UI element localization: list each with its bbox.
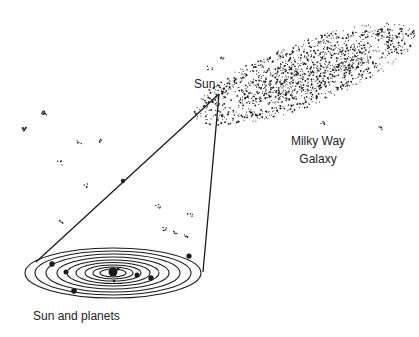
galaxy-label-line1: Milky Way — [283, 134, 353, 148]
diagram-canvas: Sun Milky Way Galaxy Sun and planets — [0, 0, 419, 337]
sun-label: Sun — [194, 77, 215, 91]
galaxy-label-line2: Galaxy — [283, 152, 353, 166]
diagram-graphics — [0, 0, 419, 337]
sun-body — [109, 268, 118, 277]
milky-way-galaxy — [194, 23, 416, 126]
galaxy-label: Milky Way Galaxy — [283, 134, 353, 166]
projection-cone — [36, 94, 219, 272]
solar-system-label: Sun and planets — [33, 309, 120, 323]
